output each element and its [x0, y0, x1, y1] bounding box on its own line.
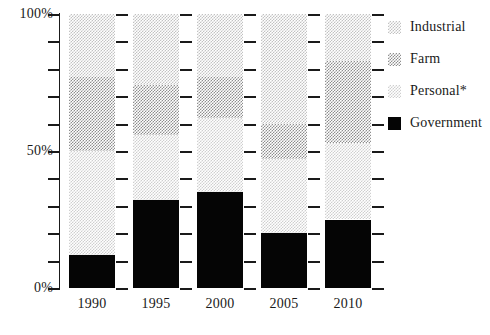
- y-tick-mark: [48, 41, 60, 43]
- stacked-bar-chart: 100%50%0% 19901995200020052010 Industria…: [0, 0, 490, 335]
- personal-swatch: [388, 85, 401, 98]
- y-tick-label: 50%: [27, 143, 53, 159]
- y-tick-mark: [48, 233, 60, 235]
- y-tick-label: 0%: [34, 280, 53, 296]
- bar-column-2005: [261, 14, 307, 288]
- bar-segment-industrial-2000: [197, 14, 243, 77]
- legend-item-personal[interactable]: Personal*: [388, 82, 467, 100]
- bar-segment-farm-2010: [325, 61, 371, 143]
- y-gridtick-mark: [372, 288, 384, 290]
- bar-column-2000: [197, 14, 243, 288]
- x-axis-label-2010: 2010: [318, 296, 378, 312]
- plot-area: 100%50%0%: [60, 14, 380, 288]
- y-tick-mark: [48, 206, 60, 208]
- y-gridtick-mark: [180, 288, 192, 290]
- bar-segment-farm-2000: [197, 77, 243, 118]
- y-tick-mark: [48, 124, 60, 126]
- bar-segment-industrial-2010: [325, 14, 371, 61]
- bar-segment-personal-1990: [69, 151, 115, 255]
- y-gridtick-mark: [244, 288, 256, 290]
- bar-segment-government-2005: [261, 233, 307, 288]
- bar-column-1995: [133, 14, 179, 288]
- legend-item-industrial[interactable]: Industrial: [388, 18, 466, 36]
- legend-item-government[interactable]: Government: [388, 114, 482, 132]
- y-gridtick-mark: [116, 288, 128, 290]
- y-tick-label: 100%: [20, 6, 53, 22]
- bar-segment-government-2010: [325, 220, 371, 289]
- y-tick-mark: [48, 69, 60, 71]
- legend-label: Personal*: [410, 83, 467, 99]
- bar-column-1990: [69, 14, 115, 288]
- bar-segment-farm-1990: [69, 77, 115, 151]
- legend-label: Industrial: [410, 19, 466, 35]
- bar-segment-industrial-2005: [261, 14, 307, 124]
- x-axis-label-2000: 2000: [190, 296, 250, 312]
- bar-segment-government-1990: [69, 255, 115, 288]
- bar-column-2010: [325, 14, 371, 288]
- y-tick-mark: [48, 96, 60, 98]
- x-axis-labels: 19901995200020052010: [60, 296, 380, 320]
- industrial-swatch: [388, 21, 401, 34]
- bar-segment-personal-2000: [197, 118, 243, 192]
- bar-segment-personal-2010: [325, 143, 371, 220]
- bar-segment-farm-2005: [261, 124, 307, 160]
- x-axis-label-1995: 1995: [126, 296, 186, 312]
- x-axis-label-1990: 1990: [62, 296, 122, 312]
- x-axis-label-2005: 2005: [254, 296, 314, 312]
- farm-swatch: [388, 53, 401, 66]
- government-swatch: [388, 117, 401, 130]
- y-tick-mark: [48, 261, 60, 263]
- bar-segment-government-2000: [197, 192, 243, 288]
- bar-group: [60, 14, 380, 288]
- legend-item-farm[interactable]: Farm: [388, 50, 440, 68]
- bar-segment-industrial-1995: [133, 14, 179, 85]
- y-gridtick-mark: [308, 288, 320, 290]
- bar-segment-personal-1995: [133, 135, 179, 201]
- bar-segment-industrial-1990: [69, 14, 115, 77]
- bar-segment-government-1995: [133, 200, 179, 288]
- legend-label: Farm: [410, 51, 440, 67]
- y-tick-mark: [48, 178, 60, 180]
- legend-label: Government: [410, 115, 482, 131]
- bar-segment-farm-1995: [133, 85, 179, 134]
- bar-segment-personal-2005: [261, 159, 307, 233]
